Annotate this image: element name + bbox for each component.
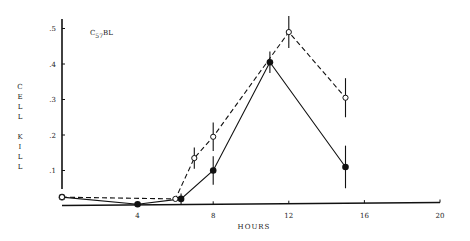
data-point-filled <box>210 167 217 174</box>
data-point-filled <box>178 196 185 203</box>
data-point-filled <box>342 164 349 171</box>
series-open <box>59 16 348 201</box>
data-point-open <box>192 155 197 160</box>
axes: .1.2.3.4.548121620 <box>49 19 444 220</box>
x-tick-label: 16 <box>360 212 369 220</box>
y-axis-label-letter: L <box>14 162 26 172</box>
y-axis-label-letter: K <box>14 132 26 142</box>
series-line <box>62 32 346 199</box>
y-tick-label: .1 <box>49 167 56 175</box>
strain-subscript: 57 <box>95 32 103 39</box>
y-tick-label: .5 <box>49 25 56 33</box>
x-tick-label: 12 <box>284 212 293 220</box>
x-tick-label: 4 <box>135 212 140 220</box>
series-filled <box>59 52 349 208</box>
x-axis-label: HOURS <box>238 223 271 231</box>
y-tick-label: .4 <box>49 61 56 69</box>
strain-suffix: BL <box>103 29 113 37</box>
y-tick-label: .3 <box>49 96 56 104</box>
y-axis-label-letter <box>14 122 26 132</box>
strain-annotation: C57BL <box>90 29 113 39</box>
data-point-filled <box>267 59 274 66</box>
y-tick-label: .2 <box>49 132 56 140</box>
y-axis-label-letter: L <box>14 112 26 122</box>
series-layer <box>59 16 349 207</box>
series-line <box>62 62 346 204</box>
data-point-open <box>343 95 348 100</box>
cell-kill-chart: .1.2.3.4.548121620 HOURS <box>0 0 470 241</box>
data-point-open <box>173 196 178 201</box>
y-axis-label-letter: E <box>14 92 26 102</box>
data-point-open <box>59 195 64 200</box>
x-tick-label: 8 <box>211 212 215 220</box>
y-axis-label-letter: L <box>14 102 26 112</box>
data-point-open <box>211 134 216 139</box>
x-tick-label: 20 <box>436 212 445 220</box>
data-point-open <box>286 29 291 34</box>
y-axis-label-letter: I <box>14 142 26 152</box>
y-axis-label: CELL KILL <box>14 82 26 172</box>
data-point-filled <box>134 201 141 208</box>
y-axis-label-letter: C <box>14 82 26 92</box>
y-axis-label-letter: L <box>14 152 26 162</box>
